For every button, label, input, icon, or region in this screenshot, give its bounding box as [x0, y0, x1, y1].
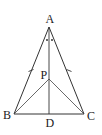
triangle-figure: A B C D P	[0, 0, 102, 135]
geometry-diagram: A B C D P	[0, 0, 102, 135]
label-c: C	[87, 109, 95, 123]
label-p: P	[41, 68, 48, 82]
label-d: D	[46, 116, 55, 130]
label-a: A	[46, 12, 55, 26]
label-b: B	[3, 108, 11, 122]
angle-dot-right	[51, 39, 53, 41]
angle-dot-left	[46, 39, 48, 41]
segment-ac	[49, 27, 84, 114]
segment-pc	[49, 79, 84, 114]
segment-pb	[14, 79, 49, 114]
